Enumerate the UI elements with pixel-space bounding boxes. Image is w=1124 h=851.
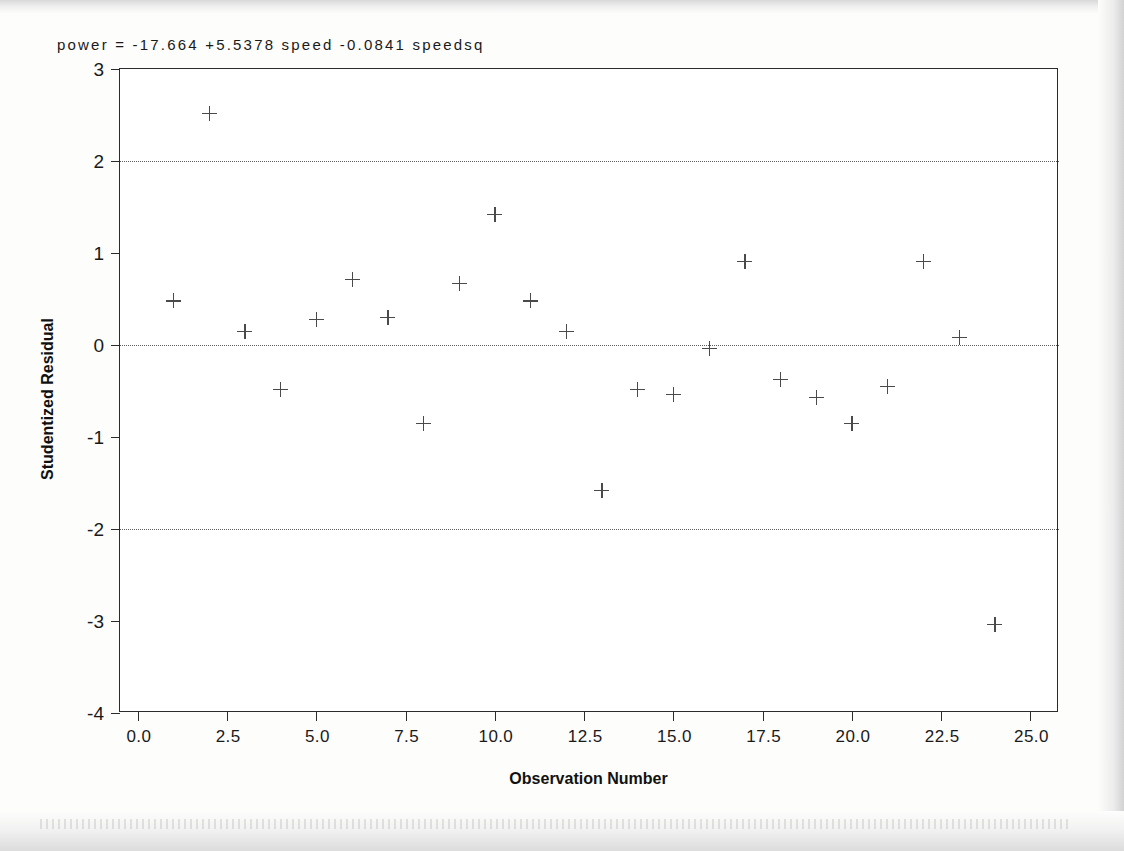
x-tick-label: 12.5 xyxy=(568,727,603,747)
data-point-marker xyxy=(630,382,645,397)
y-tick-label: -2 xyxy=(87,519,104,541)
y-tick-label: 3 xyxy=(93,59,104,81)
reference-line xyxy=(120,529,1059,530)
x-tick: 17.5 xyxy=(763,711,764,721)
data-point-marker xyxy=(523,293,538,308)
data-point-marker xyxy=(380,310,395,325)
y-tick: 1 xyxy=(111,253,120,254)
x-tick: 12.5 xyxy=(584,711,585,721)
x-tick-label: 0.0 xyxy=(126,727,151,747)
data-point-marker xyxy=(880,379,895,394)
x-tick-label: 22.5 xyxy=(925,727,960,747)
x-tick: 15.0 xyxy=(673,711,674,721)
plot-frame: 3210-1-2-3-4 0.02.55.07.510.012.515.017.… xyxy=(119,68,1058,712)
y-tick-label: 1 xyxy=(93,243,104,265)
data-point-marker xyxy=(452,276,467,291)
y-tick-label: 2 xyxy=(93,151,104,173)
x-tick-label: 17.5 xyxy=(746,727,781,747)
y-axis-label: Studentized Residual xyxy=(39,199,57,599)
data-point-marker xyxy=(202,106,217,121)
data-point-marker xyxy=(594,483,609,498)
y-tick-label: -4 xyxy=(87,703,104,725)
data-point-marker xyxy=(737,254,752,269)
y-tick: 3 xyxy=(111,69,120,70)
x-tick: 5.0 xyxy=(316,711,317,721)
data-point-marker xyxy=(237,324,252,339)
data-point-marker xyxy=(273,382,288,397)
y-tick: 0 xyxy=(111,345,120,346)
x-tick: 25.0 xyxy=(1030,711,1031,721)
scanned-page: power = -17.664 +5.5378 speed -0.0841 sp… xyxy=(0,0,1124,851)
x-tick-label: 5.0 xyxy=(305,727,330,747)
data-point-marker xyxy=(916,254,931,269)
x-axis-label: Observation Number xyxy=(119,770,1058,788)
x-tick: 22.5 xyxy=(941,711,942,721)
y-tick-label: -3 xyxy=(87,611,104,633)
data-point-marker xyxy=(809,390,824,405)
x-tick-label: 20.0 xyxy=(836,727,871,747)
y-tick: -3 xyxy=(111,621,120,622)
data-point-marker xyxy=(487,207,502,222)
data-point-marker xyxy=(309,312,324,327)
chart-title: power = -17.664 +5.5378 speed -0.0841 sp… xyxy=(57,36,485,53)
x-tick-label: 10.0 xyxy=(479,727,514,747)
x-tick: 20.0 xyxy=(852,711,853,721)
reference-line xyxy=(120,345,1059,346)
scatter-plot: power = -17.664 +5.5378 speed -0.0841 sp… xyxy=(0,0,1124,851)
y-tick-label: -1 xyxy=(87,427,104,449)
x-tick-label: 15.0 xyxy=(657,727,692,747)
y-tick: -2 xyxy=(111,529,120,530)
x-tick-label: 25.0 xyxy=(1014,727,1049,747)
data-point-marker xyxy=(952,330,967,345)
y-tick-label: 0 xyxy=(93,335,104,357)
data-point-marker xyxy=(702,341,717,356)
data-point-marker xyxy=(166,293,181,308)
y-tick: -1 xyxy=(111,437,120,438)
data-point-marker xyxy=(345,272,360,287)
x-tick-label: 7.5 xyxy=(394,727,419,747)
x-tick: 7.5 xyxy=(406,711,407,721)
y-tick: -4 xyxy=(111,713,120,714)
data-point-marker xyxy=(559,324,574,339)
data-point-marker xyxy=(844,416,859,431)
data-point-marker xyxy=(987,617,1002,632)
x-tick-label: 2.5 xyxy=(216,727,241,747)
reference-line xyxy=(120,161,1059,162)
x-tick: 10.0 xyxy=(495,711,496,721)
data-point-marker xyxy=(666,387,681,402)
data-point-marker xyxy=(416,416,431,431)
y-tick: 2 xyxy=(111,161,120,162)
x-tick: 2.5 xyxy=(227,711,228,721)
data-point-marker xyxy=(773,372,788,387)
x-tick: 0.0 xyxy=(138,711,139,721)
